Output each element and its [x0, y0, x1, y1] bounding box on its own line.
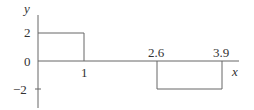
y-tick-label-0: 0: [24, 54, 31, 69]
y-tick-label-2: 2: [24, 25, 31, 40]
x-tick-label-3-9: 3.9: [213, 45, 229, 60]
chart: y 2 0 −2 1 2.6 3.9 x: [0, 0, 254, 110]
y-tick-label-neg2: −2: [13, 82, 27, 97]
x-tick-label-1: 1: [81, 65, 88, 80]
negative-segment: [157, 61, 222, 89]
positive-segment: [38, 33, 84, 61]
y-axis-label: y: [22, 1, 30, 16]
x-tick-label-2-6: 2.6: [148, 45, 165, 60]
x-axis-label: x: [231, 64, 238, 79]
